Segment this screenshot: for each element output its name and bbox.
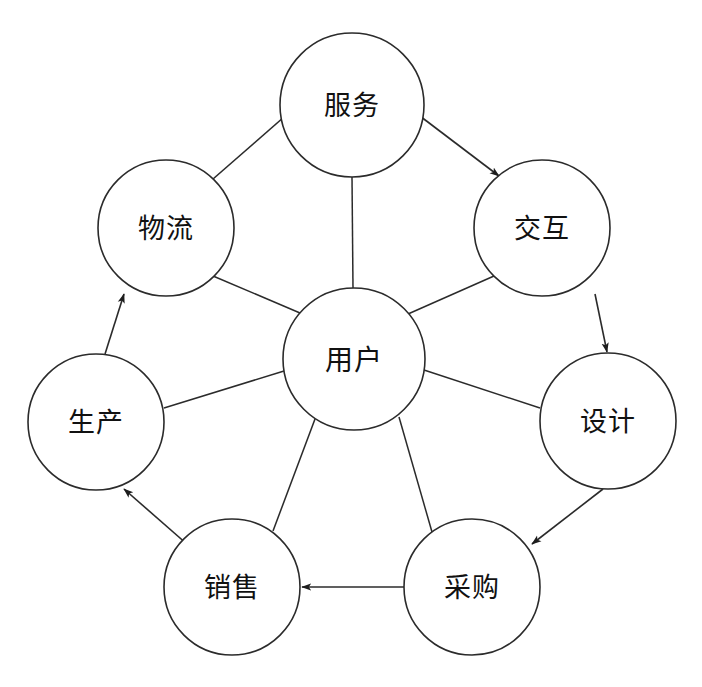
relationship-diagram: 服务 交互 设计 采购 销售 生产 物流 用户	[0, 0, 702, 687]
diagram-canvas: 服务 交互 设计 采购 销售 生产 物流 用户	[0, 0, 702, 687]
node-sales[interactable]: 销售	[164, 519, 300, 655]
node-service-label: 服务	[324, 91, 380, 121]
node-logistics[interactable]: 物流	[98, 160, 234, 296]
node-procurement-label: 采购	[444, 573, 500, 603]
node-design-label: 设计	[580, 407, 636, 437]
node-logistics-label: 物流	[138, 214, 194, 244]
edge-design-to-procurement	[532, 489, 603, 544]
spoke-user-sales	[273, 419, 315, 531]
spoke-user-production	[164, 371, 284, 408]
spoke-user-logistics	[213, 276, 300, 313]
node-procurement[interactable]: 采购	[404, 519, 540, 655]
spoke-user-interaction	[408, 276, 494, 314]
edge-logistics-to-service	[213, 110, 292, 179]
node-service[interactable]: 服务	[280, 33, 424, 177]
node-production[interactable]: 生产	[28, 354, 164, 490]
node-production-label: 生产	[68, 408, 124, 438]
spoke-user-design	[424, 370, 540, 408]
edge-service-to-interaction	[412, 110, 499, 176]
node-user[interactable]: 用户	[283, 288, 425, 430]
edge-production-to-logistics	[105, 294, 124, 354]
spoke-user-procurement	[399, 417, 432, 532]
node-user-label: 用户	[325, 345, 383, 376]
node-interaction[interactable]: 交互	[474, 160, 610, 296]
spoke-user-service	[352, 177, 353, 288]
node-design[interactable]: 设计	[540, 353, 676, 489]
edge-interaction-to-design	[595, 294, 607, 352]
edge-sales-to-production	[124, 489, 188, 545]
node-interaction-label: 交互	[514, 214, 570, 244]
node-sales-label: 销售	[204, 573, 260, 603]
